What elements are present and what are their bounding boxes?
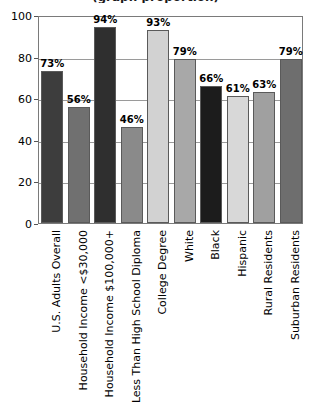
y-tick-mark bbox=[34, 224, 38, 225]
x-label-slot: Household Income $100,000+ bbox=[91, 226, 118, 402]
x-tick-label: Household Income <$30,000 bbox=[78, 230, 89, 390]
bar[interactable] bbox=[147, 30, 169, 223]
bar-slot: 93% bbox=[145, 17, 172, 223]
x-label-slot: Suburban Residents bbox=[277, 226, 304, 402]
bar-slot: 46% bbox=[119, 17, 146, 223]
x-tick-label: Household Income $100,000+ bbox=[104, 230, 115, 397]
bar[interactable] bbox=[68, 107, 90, 223]
y-tick-label: 100 bbox=[11, 11, 32, 22]
x-tick-label: Less Than High School Diploma bbox=[131, 230, 142, 402]
y-tick-label: 20 bbox=[18, 177, 32, 188]
bar-value-label: 63% bbox=[252, 80, 276, 90]
x-tick-label: Black bbox=[210, 230, 221, 260]
bar[interactable] bbox=[227, 96, 249, 223]
plot-area: 73%56%94%46%93%79%66%61%63%79% bbox=[38, 16, 303, 224]
x-axis-labels: U.S. Adults OverallHousehold Income <$30… bbox=[38, 226, 303, 402]
x-label-slot: Less Than High School Diploma bbox=[118, 226, 145, 402]
bar-value-label: 79% bbox=[279, 47, 303, 57]
bar-chart: (graph proportion) 020406080100 73%56%94… bbox=[0, 0, 311, 402]
x-tick-label: White bbox=[184, 230, 195, 262]
y-tick-label: 0 bbox=[25, 219, 32, 230]
bar-slot: 61% bbox=[225, 17, 252, 223]
x-label-slot: Household Income <$30,000 bbox=[65, 226, 92, 402]
bar[interactable] bbox=[200, 86, 222, 223]
bar-value-label: 61% bbox=[226, 84, 250, 94]
bar[interactable] bbox=[280, 59, 302, 223]
x-tick-label: Rural Residents bbox=[263, 230, 274, 315]
x-tick-label: Suburban Residents bbox=[290, 230, 301, 340]
chart-title: (graph proportion) bbox=[0, 0, 311, 3]
y-tick-label: 60 bbox=[18, 94, 32, 105]
bar-slot: 79% bbox=[278, 17, 305, 223]
bar-value-label: 93% bbox=[146, 18, 170, 28]
bar[interactable] bbox=[253, 92, 275, 223]
bar-value-label: 73% bbox=[40, 59, 64, 69]
bar[interactable] bbox=[41, 71, 63, 223]
bar-slot: 56% bbox=[66, 17, 93, 223]
bar-slot: 66% bbox=[198, 17, 225, 223]
bar-value-label: 66% bbox=[199, 74, 223, 84]
x-label-slot: Black bbox=[197, 226, 224, 402]
bar-value-label: 79% bbox=[173, 47, 197, 57]
bar[interactable] bbox=[174, 59, 196, 223]
bar-slot: 94% bbox=[92, 17, 119, 223]
x-tick-label: U.S. Adults Overall bbox=[51, 230, 62, 333]
y-axis: 020406080100 bbox=[0, 16, 38, 224]
bar[interactable] bbox=[121, 127, 143, 223]
x-tick-label: College Degree bbox=[157, 230, 168, 315]
y-tick-label: 40 bbox=[18, 135, 32, 146]
bar[interactable] bbox=[94, 27, 116, 223]
x-label-slot: Rural Residents bbox=[250, 226, 277, 402]
bar-value-label: 56% bbox=[67, 95, 91, 105]
y-tick-label: 80 bbox=[18, 52, 32, 63]
x-label-slot: White bbox=[171, 226, 198, 402]
x-tick-label: Hispanic bbox=[237, 230, 248, 277]
bar-slot: 73% bbox=[39, 17, 66, 223]
bar-value-label: 46% bbox=[120, 115, 144, 125]
x-label-slot: U.S. Adults Overall bbox=[38, 226, 65, 402]
bar-slot: 63% bbox=[251, 17, 278, 223]
x-label-slot: Hispanic bbox=[224, 226, 251, 402]
bar-series: 73%56%94%46%93%79%66%61%63%79% bbox=[39, 17, 302, 223]
x-label-slot: College Degree bbox=[144, 226, 171, 402]
bar-value-label: 94% bbox=[93, 15, 117, 25]
bar-slot: 79% bbox=[172, 17, 199, 223]
